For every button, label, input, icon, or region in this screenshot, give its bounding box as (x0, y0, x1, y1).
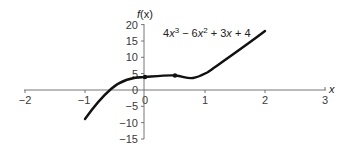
x-axis: −2 −1 0 1 2 3 x (19, 83, 335, 106)
y-tick-label: −5 (125, 100, 138, 112)
point-marker (173, 73, 177, 77)
y-axis-label-arg: (x) (140, 8, 153, 20)
y-tick-label: 20 (126, 19, 138, 31)
equation-annotation: 4x3 − 6x2 + 3x + 4 (163, 26, 251, 39)
function-plot: −2 −1 0 1 2 3 x 20 15 10 5 0 −5 −10 −15 … (0, 0, 347, 148)
x-axis-label: x (328, 83, 335, 95)
point-marker (143, 75, 147, 79)
y-axis-label: f(x) (137, 8, 153, 20)
x-tick-label: −2 (19, 94, 32, 106)
y-tick-label: −10 (119, 117, 138, 129)
y-tick-label: 10 (126, 51, 138, 63)
y-tick-label: −15 (119, 133, 138, 145)
x-tick-label: 2 (262, 94, 268, 106)
x-tick-label: 0 (142, 94, 148, 106)
x-tick-label: −1 (78, 94, 91, 106)
x-tick-label: 3 (322, 94, 328, 106)
y-tick-label: 15 (126, 35, 138, 47)
y-tick-label: 0 (132, 84, 138, 96)
x-tick-label: 1 (202, 94, 208, 106)
